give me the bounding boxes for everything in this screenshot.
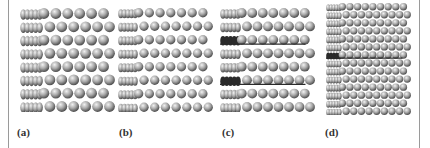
sphere-lattice-a — [20, 8, 115, 112]
sphere-lattice-b — [118, 8, 213, 112]
panel-b — [118, 8, 213, 112]
panel-label-c: (c) — [222, 126, 234, 138]
panel-label-b: (b) — [119, 126, 132, 138]
panel-a — [20, 8, 115, 112]
panel-d — [326, 3, 411, 115]
sphere-lattice-d — [326, 3, 411, 115]
sphere-lattice-c — [220, 8, 315, 112]
panel-label-d: (d) — [325, 126, 338, 138]
panel-c — [220, 8, 315, 112]
panel-label-a: (a) — [17, 126, 30, 138]
